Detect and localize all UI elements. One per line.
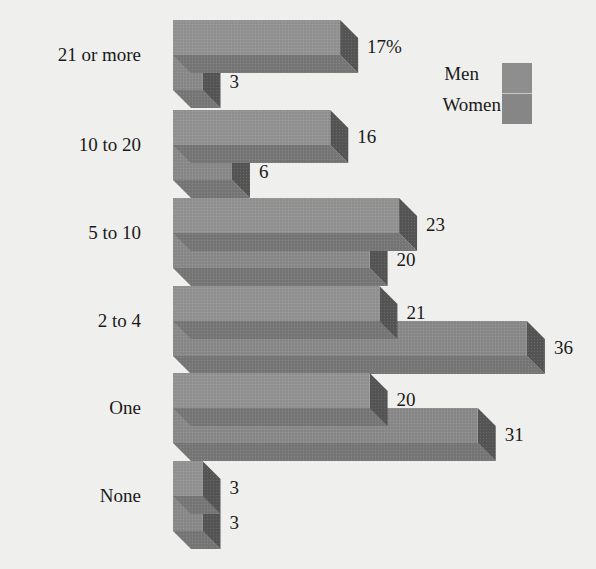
bar-men-4-front-texture [173, 373, 370, 408]
bar-men-4-bottom-texture [173, 408, 388, 426]
value-label-women: 20 [397, 249, 416, 271]
bar-men-0-front-texture [173, 20, 340, 55]
legend-label-women: Women [361, 94, 501, 116]
bar-women-2-bottom-texture [173, 268, 388, 286]
value-label-women: 6 [259, 161, 269, 183]
bar-men-3-bottom-texture [173, 321, 397, 339]
category-label: None [0, 485, 141, 507]
legend-swatch-men [502, 63, 532, 94]
category-label: 2 to 4 [0, 310, 141, 332]
value-label-women: 31 [505, 424, 524, 446]
bar-men-1-front-texture [173, 110, 330, 145]
value-label-men: 16 [357, 126, 376, 148]
bar-women-4-bottom-texture [173, 443, 496, 461]
legend-label-men: Men [339, 63, 479, 85]
value-label-women: 3 [229, 71, 239, 93]
legend-swatch-women [502, 94, 532, 124]
value-label-women: 36 [554, 337, 573, 359]
bar-men-3-front-texture [173, 286, 379, 321]
category-label: 5 to 10 [0, 222, 141, 244]
bar-men-5-front-texture [173, 461, 202, 496]
bar-women-3-bottom-texture [173, 356, 545, 374]
bar-men-0-bottom-texture [173, 55, 358, 73]
value-label-men: 20 [397, 389, 416, 411]
bar-men-2-bottom-texture [173, 233, 417, 251]
category-label: 10 to 20 [0, 134, 141, 156]
category-label: 21 or more [0, 44, 141, 66]
value-label-men: 23 [426, 214, 445, 236]
bar-men-2-front-texture [173, 198, 399, 233]
category-label: One [0, 397, 141, 419]
value-label-women: 3 [229, 512, 239, 534]
value-label-men: 21 [406, 302, 425, 324]
value-label-men: 3 [229, 477, 239, 499]
value-label-men: 17% [367, 36, 402, 58]
